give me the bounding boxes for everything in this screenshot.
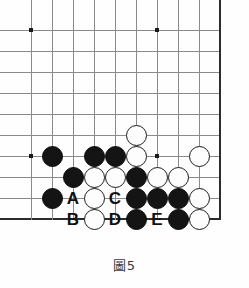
go-board[interactable]: ACBDE <box>0 0 249 252</box>
white-stone[interactable] <box>84 209 105 230</box>
star-point <box>155 154 159 158</box>
point-marker-a: A <box>63 188 84 209</box>
black-stone[interactable] <box>105 146 126 167</box>
black-stone[interactable] <box>84 146 105 167</box>
black-stone[interactable] <box>168 188 189 209</box>
black-stone[interactable] <box>168 209 189 230</box>
grid-line-horizontal <box>0 135 221 136</box>
star-point <box>155 28 159 32</box>
white-stone[interactable] <box>84 167 105 188</box>
white-stone[interactable] <box>189 209 210 230</box>
grid-line-horizontal <box>0 30 221 31</box>
black-stone[interactable] <box>126 167 147 188</box>
grid-line-horizontal <box>0 93 221 94</box>
grid-line-horizontal <box>0 72 221 73</box>
white-stone[interactable] <box>84 188 105 209</box>
black-stone[interactable] <box>42 188 63 209</box>
white-stone[interactable] <box>126 146 147 167</box>
black-stone[interactable] <box>42 146 63 167</box>
figure-caption: 圖5 <box>0 255 249 274</box>
grid-line-vertical <box>219 0 221 220</box>
black-stone[interactable] <box>63 167 84 188</box>
white-stone[interactable] <box>189 146 210 167</box>
point-marker-c: C <box>105 188 126 209</box>
black-stone[interactable] <box>147 188 168 209</box>
star-point <box>29 28 33 32</box>
black-stone[interactable] <box>126 188 147 209</box>
grid-line-horizontal <box>0 114 221 115</box>
white-stone[interactable] <box>189 188 210 209</box>
white-stone[interactable] <box>147 167 168 188</box>
go-diagram-figure: ACBDE 圖5 <box>0 0 249 288</box>
point-marker-d: D <box>105 209 126 230</box>
white-stone[interactable] <box>126 125 147 146</box>
point-marker-e: E <box>147 209 168 230</box>
black-stone[interactable] <box>126 209 147 230</box>
star-point <box>29 154 33 158</box>
white-stone[interactable] <box>105 167 126 188</box>
white-stone[interactable] <box>168 167 189 188</box>
grid-line-vertical <box>31 0 32 220</box>
grid-line-horizontal <box>0 51 221 52</box>
point-marker-b: B <box>63 209 84 230</box>
